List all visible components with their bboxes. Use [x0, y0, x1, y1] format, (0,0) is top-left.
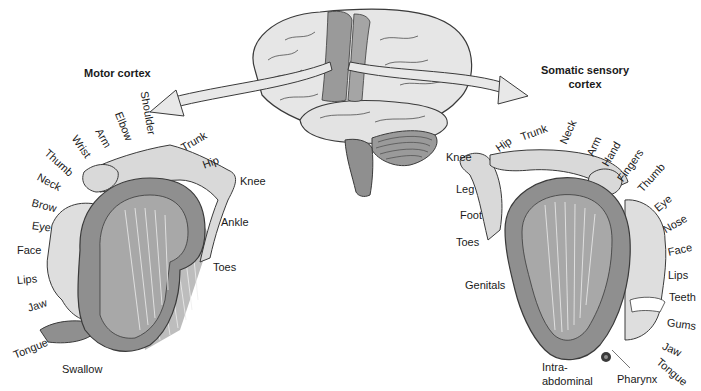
sensory-label-abdominal: abdominal [542, 376, 593, 387]
sensory-label-teeth: Teeth [669, 292, 696, 303]
sensory-label-knee: Knee [446, 152, 472, 163]
sensory-label-leg: Leg [456, 184, 474, 195]
motor-label-toes: Toes [213, 262, 236, 273]
cortical-homunculus-diagram: Motor cortex Somatic sensory cortex Shou… [0, 0, 701, 391]
motor-label-knee: Knee [240, 176, 266, 187]
sensory-label-foot: Foot [460, 210, 482, 221]
sensory-cortex-title: Somatic sensory cortex [520, 64, 650, 92]
motor-label-ankle: Ankle [221, 217, 249, 228]
motor-label-lips: Lips [17, 273, 38, 286]
sensory-label-genitals: Genitals [465, 280, 505, 291]
sensory-label-lips: Lips [668, 270, 688, 281]
motor-label-face: Face [17, 245, 41, 256]
diagram-artwork [0, 0, 701, 391]
motor-cortex-title: Motor cortex [84, 67, 151, 81]
sensory-cortex-title-line1: Somatic sensory [520, 64, 650, 78]
sensory-label-toes: Toes [456, 237, 479, 248]
motor-label-swallow: Swallow [62, 364, 102, 375]
sensory-label-pharynx: Pharynx [617, 374, 657, 385]
sensory-cortex-title-line2: cortex [520, 78, 650, 92]
sensory-label-intra: Intra- [542, 362, 568, 373]
sensory-homunculus-illustration [460, 150, 666, 368]
center-brain-illustration [253, 9, 472, 196]
